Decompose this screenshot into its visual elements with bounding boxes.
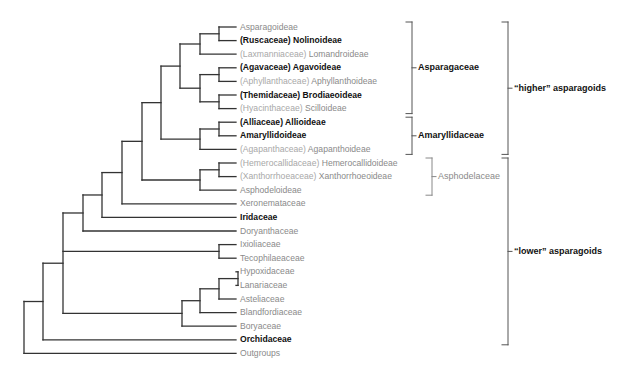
leaf-label: (Hemerocallidaceae) Hemerocallidoideae xyxy=(240,158,398,168)
leaf-label: Boryaceae xyxy=(240,321,281,331)
leaf-label-name: Allioideae xyxy=(285,117,326,127)
leaf-label-name: Agavoideae xyxy=(293,62,341,72)
leaf-label: Blandfordiaceae xyxy=(240,307,302,317)
leaf-label-name: Asteliaceae xyxy=(240,294,284,304)
leaf-label: (Ruscaceae) Nolinoideae xyxy=(240,35,342,45)
leaf-label-name: Brodiaeoideae xyxy=(303,90,362,100)
leaf-label: (Alliaceae) Allioideae xyxy=(240,117,326,127)
leaf-label-former-family: (Agapanthaceae) xyxy=(240,144,308,154)
leaf-label: Hypoxidaceae xyxy=(240,266,294,276)
group-label: Asphodelaceae xyxy=(438,171,500,181)
leaf-label-former-family: (Ruscaceae) xyxy=(240,35,293,45)
leaf-label: Xeronemataceae xyxy=(240,198,305,208)
leaf-label-former-family: (Agavaceae) xyxy=(240,62,293,72)
leaf-label-name: Orchidaceae xyxy=(240,334,292,344)
leaf-label-former-family: (Themidaceae) xyxy=(240,90,303,100)
leaf-label: Lanariaceae xyxy=(240,280,287,290)
leaf-label-former-family: (Alliaceae) xyxy=(240,117,285,127)
leaf-label-former-family: (Hemerocallidaceae) xyxy=(240,158,322,168)
leaf-label-former-family: (Laxmanniaceae) xyxy=(240,49,309,59)
leaf-label-name: Agapanthoideae xyxy=(308,144,371,154)
leaf-label-former-family: (Aphyllanthaceae) xyxy=(240,76,311,86)
leaf-label-name: Tecophilaeaceae xyxy=(240,253,305,263)
leaf-label-former-family: (Xanthorrhoeaceae) xyxy=(240,171,319,181)
leaf-label: Asparagoideae xyxy=(240,22,298,32)
group-label: “higher” asparagoids xyxy=(514,83,606,93)
leaf-label-name: Amaryllidoideae xyxy=(240,130,306,140)
leaf-label: Asphodeloideae xyxy=(240,185,302,195)
leaf-label: Amaryllidoideae xyxy=(240,130,306,140)
leaf-label-name: Iridaceae xyxy=(240,212,277,222)
group-label: Amaryllidaceae xyxy=(418,130,484,140)
leaf-label-name: Xanthorrhoeoideae xyxy=(319,171,392,181)
group-label: Asparagaceae xyxy=(418,62,479,72)
leaf-label-name: Outgroups xyxy=(240,348,280,358)
leaf-label: (Hyacinthaceae) Scilloideae xyxy=(240,103,347,113)
leaf-label: Doryanthaceae xyxy=(240,226,298,236)
leaf-label-name: Boryaceae xyxy=(240,321,281,331)
leaf-label: Orchidaceae xyxy=(240,334,292,344)
leaf-label-name: Hypoxidaceae xyxy=(240,266,294,276)
leaf-label: Tecophilaeaceae xyxy=(240,253,305,263)
leaf-label: (Agavaceae) Agavoideae xyxy=(240,62,341,72)
leaf-label-name: Lomandroideae xyxy=(309,49,369,59)
leaf-label: (Laxmanniaceae) Lomandroideae xyxy=(240,49,369,59)
leaf-label-name: Xeronemataceae xyxy=(240,198,305,208)
leaf-label-name: Asphodeloideae xyxy=(240,185,302,195)
leaf-label: (Xanthorrhoeaceae) Xanthorrhoeoideae xyxy=(240,171,392,181)
leaf-label-former-family: (Hyacinthaceae) xyxy=(240,103,305,113)
leaf-label: Outgroups xyxy=(240,348,280,358)
leaf-label-name: Aphyllanthoideae xyxy=(311,76,377,86)
leaf-label: (Agapanthaceae) Agapanthoideae xyxy=(240,144,370,154)
leaf-label: Asteliaceae xyxy=(240,294,284,304)
leaf-label: (Aphyllanthaceae) Aphyllanthoideae xyxy=(240,76,377,86)
leaf-label-name: Lanariaceae xyxy=(240,280,287,290)
leaf-label-name: Hemerocallidoideae xyxy=(322,158,398,168)
leaf-label-name: Doryanthaceae xyxy=(240,226,298,236)
leaf-label-name: Asparagoideae xyxy=(240,22,298,32)
leaf-label-name: Nolinoideae xyxy=(293,35,342,45)
leaf-label: Ixioliaceae xyxy=(240,239,281,249)
leaf-label: (Themidaceae) Brodiaeoideae xyxy=(240,90,362,100)
group-label: “lower” asparagoids xyxy=(514,246,602,256)
leaf-label: Iridaceae xyxy=(240,212,277,222)
leaf-label-name: Blandfordiaceae xyxy=(240,307,302,317)
leaf-label-name: Ixioliaceae xyxy=(240,239,281,249)
leaf-label-name: Scilloideae xyxy=(305,103,347,113)
